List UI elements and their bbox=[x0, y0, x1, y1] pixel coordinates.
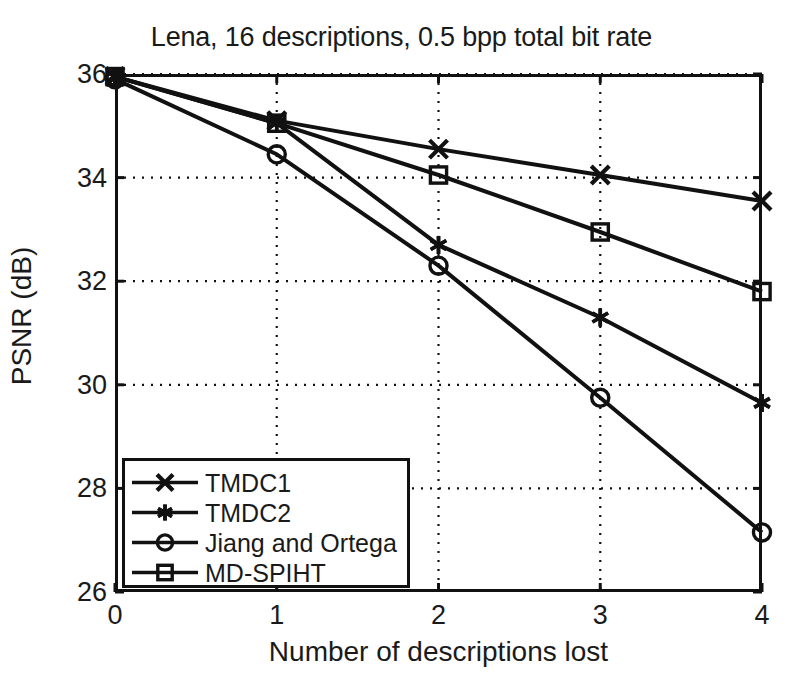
y-tick-label: 26 bbox=[77, 577, 107, 608]
legend: TMDC1TMDC2Jiang and OrtegaMD-SPIHT bbox=[122, 458, 410, 588]
x-tick-label: 2 bbox=[431, 600, 446, 631]
x-axis-tick-labels: 01234 bbox=[115, 600, 762, 640]
y-axis-label: PSNR (dB) bbox=[6, 146, 38, 486]
legend-item[interactable]: Jiang and Ortega bbox=[125, 527, 413, 558]
y-tick-label: 34 bbox=[77, 162, 107, 193]
x-axis-label: Number of descriptions lost bbox=[115, 636, 762, 668]
legend-marker-circle bbox=[130, 527, 200, 558]
legend-label: MD-SPIHT bbox=[205, 558, 326, 587]
x-tick-label: 1 bbox=[269, 600, 284, 631]
y-tick-label: 28 bbox=[77, 473, 107, 504]
legend-marker-asterisk bbox=[130, 497, 200, 528]
figure-chart: Lena, 16 descriptions, 0.5 bpp total bit… bbox=[0, 0, 803, 695]
x-tick-label: 3 bbox=[593, 600, 608, 631]
y-tick-label: 36 bbox=[77, 59, 107, 90]
x-tick-label: 0 bbox=[107, 600, 122, 631]
legend-label: TMDC1 bbox=[205, 468, 291, 497]
chart-title: Lena, 16 descriptions, 0.5 bpp total bit… bbox=[0, 22, 803, 53]
legend-marker-x-cross bbox=[130, 467, 200, 498]
legend-item[interactable]: TMDC1 bbox=[125, 467, 413, 498]
legend-marker-square bbox=[130, 557, 200, 588]
legend-item[interactable]: MD-SPIHT bbox=[125, 557, 413, 588]
x-tick-label: 4 bbox=[754, 600, 769, 631]
legend-label: Jiang and Ortega bbox=[205, 528, 397, 557]
legend-label: TMDC2 bbox=[205, 498, 291, 527]
legend-item[interactable]: TMDC2 bbox=[125, 497, 413, 528]
y-tick-label: 32 bbox=[77, 266, 107, 297]
y-tick-label: 30 bbox=[77, 369, 107, 400]
